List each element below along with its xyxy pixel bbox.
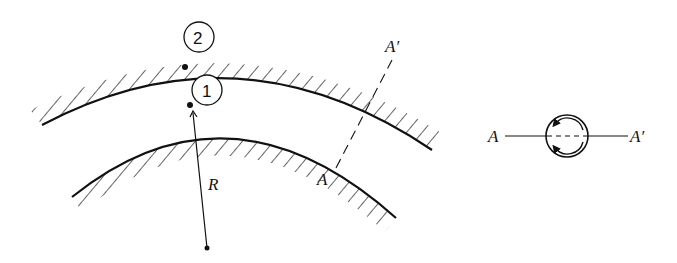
section-label-start: A	[316, 170, 328, 189]
section-view-left-label: A	[487, 127, 499, 146]
radius-line	[193, 113, 207, 248]
point-1-label: 1	[202, 82, 211, 101]
section-view-right-label: A′	[629, 127, 644, 146]
section-view: A A′	[487, 115, 644, 157]
center-point	[205, 246, 210, 251]
point-2-label: 2	[193, 29, 202, 48]
inner-wall-hatching	[72, 138, 396, 232]
radius-label: R	[207, 175, 219, 194]
section-label-end: A′	[384, 37, 399, 56]
circulation-arrow-top	[555, 118, 583, 130]
outer-wall-hatching	[30, 63, 445, 150]
channel-diagram: R 2 1 A′ A A A′	[0, 0, 677, 263]
circulation-arrow-bottom	[555, 142, 583, 154]
point-2-dot	[182, 64, 188, 70]
point-1-dot	[187, 102, 193, 108]
